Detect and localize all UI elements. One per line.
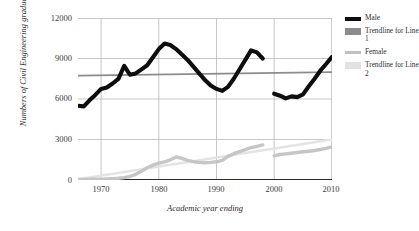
- y-tick-6000: 6000: [38, 94, 72, 103]
- series-trendline-line2: [78, 140, 332, 180]
- x-axis-title: Academic year ending: [78, 203, 332, 213]
- x-tick-1990: 1990: [196, 184, 236, 194]
- legend-item-trendline-line-1: Trendline for Line 1: [345, 27, 419, 44]
- y-tick-0: 0: [38, 176, 72, 185]
- y-tick-12000: 12000: [38, 14, 72, 23]
- x-tick-1970: 1970: [81, 184, 121, 194]
- series-male-segment-2: [274, 57, 331, 98]
- chart-canvas: [78, 18, 332, 180]
- y-axis-title: Numbers of Civil Engineering graduates: [18, 0, 28, 137]
- legend-item-trendline-line-2: Trendline for Line 2: [345, 61, 419, 78]
- y-tick-3000: 3000: [38, 135, 72, 144]
- legend-label-trendline-line-2: Trendline for Line 2: [365, 61, 419, 78]
- legend-item-male: Male: [345, 14, 419, 22]
- legend-swatch-female-icon: [345, 51, 361, 54]
- chart-figure: Numbers of Civil Engineering graduates 1…: [0, 0, 419, 231]
- y-axis-tick-labels: 12000 9000 6000 3000 0: [36, 0, 72, 231]
- legend-swatch-trendline1-icon: [345, 28, 361, 35]
- legend-label-male: Male: [365, 14, 380, 22]
- series-trendline-line1: [78, 72, 332, 76]
- legend-label-trendline-line-1: Trendline for Line 1: [365, 27, 419, 44]
- legend-item-female: Female: [345, 48, 419, 56]
- chart-title-cropped: [110, 0, 310, 7]
- x-tick-2000: 2000: [254, 184, 294, 194]
- legend-label-female: Female: [365, 48, 386, 56]
- plot-area: [78, 18, 332, 180]
- y-tick-9000: 9000: [38, 54, 72, 63]
- x-tick-1980: 1980: [139, 184, 179, 194]
- chart-legend: Male Trendline for Line 1 Female Trendli…: [345, 14, 419, 82]
- legend-swatch-male-icon: [345, 17, 361, 21]
- x-tick-2010: 2010: [311, 184, 351, 194]
- legend-swatch-trendline2-icon: [345, 62, 361, 69]
